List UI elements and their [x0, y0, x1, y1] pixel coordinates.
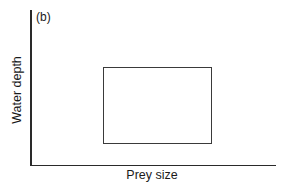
y-axis — [30, 10, 32, 166]
y-axis-label: Water depth — [10, 56, 24, 124]
x-axis-label: Prey size — [126, 168, 177, 182]
x-axis — [30, 165, 276, 167]
rectangle-region — [103, 67, 212, 144]
panel-label: (b) — [36, 10, 51, 24]
